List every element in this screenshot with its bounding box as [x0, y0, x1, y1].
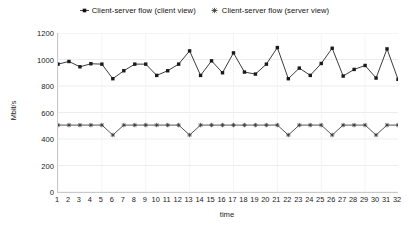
- x-axis-title: time: [57, 210, 397, 219]
- data-point-marker: [396, 78, 398, 81]
- y-axis-tick-label: 1000: [16, 55, 54, 64]
- y-axis-tick-label: 1200: [16, 29, 54, 38]
- y-axis-tick-label: 400: [16, 135, 54, 144]
- data-point-marker: [165, 123, 169, 127]
- x-axis-tick-label: 11: [163, 195, 171, 204]
- data-point-marker: [58, 62, 60, 65]
- data-point-marker: [287, 77, 290, 80]
- data-point-marker: [254, 72, 257, 75]
- x-axis-tick-label: 32: [393, 195, 401, 204]
- x-axis-tick-label: 14: [195, 195, 203, 204]
- x-axis-tick-label: 20: [261, 195, 269, 204]
- x-axis-tick-label: 9: [143, 195, 147, 204]
- data-point-marker: [264, 123, 268, 127]
- y-axis-tick-label: 600: [16, 108, 54, 117]
- x-axis-tick-label: 25: [316, 195, 324, 204]
- y-axis-tick-label: 0: [16, 188, 54, 197]
- x-axis-tick-label: 12: [174, 195, 182, 204]
- data-point-marker: [385, 123, 389, 127]
- data-point-marker: [396, 123, 398, 127]
- data-point-marker: [231, 123, 235, 127]
- x-axis-tick-label: 18: [239, 195, 247, 204]
- data-point-marker: [78, 65, 81, 68]
- x-axis-tick-label: 17: [228, 195, 236, 204]
- data-point-marker: [352, 68, 355, 71]
- y-axis-title: Mbit/s: [9, 81, 18, 141]
- data-point-marker: [111, 133, 115, 137]
- plot-svg: [58, 33, 398, 192]
- data-point-marker: [210, 59, 213, 62]
- x-axis-tick-labels: 1234567891011121314151617181920212223242…: [57, 195, 397, 209]
- legend-label-server-view: Client-server flow (server view): [222, 6, 329, 15]
- data-point-marker: [276, 46, 279, 49]
- data-point-marker: [297, 123, 301, 127]
- data-point-marker: [198, 123, 202, 127]
- x-axis-tick-label: 24: [305, 195, 313, 204]
- x-axis-tick-label: 6: [110, 195, 114, 204]
- x-axis-tick-label: 16: [217, 195, 225, 204]
- x-axis-tick-label: 21: [272, 195, 280, 204]
- data-point-marker: [122, 69, 125, 72]
- series-server-view: [58, 123, 398, 137]
- data-point-marker: [298, 66, 301, 69]
- data-point-marker: [176, 123, 180, 127]
- plot-area: [57, 33, 398, 193]
- data-point-marker: [166, 69, 169, 72]
- data-point-marker: [352, 123, 356, 127]
- data-point-marker: [265, 62, 268, 65]
- data-point-marker: [199, 74, 202, 77]
- data-point-marker: [363, 64, 366, 67]
- data-point-marker: [187, 133, 191, 137]
- data-point-marker: [275, 123, 279, 127]
- x-axis-tick-label: 28: [349, 195, 357, 204]
- x-axis-tick-label: 19: [250, 195, 258, 204]
- data-point-marker: [330, 133, 334, 137]
- y-axis-tick-label: 200: [16, 161, 54, 170]
- line-chart: Client-server flow (client view) Client-…: [0, 0, 409, 241]
- x-axis-tick-label: 30: [371, 195, 379, 204]
- data-point-marker: [67, 60, 70, 63]
- x-axis-tick-label: 5: [99, 195, 103, 204]
- data-point-marker: [133, 62, 136, 65]
- chart-legend: Client-server flow (client view) Client-…: [0, 6, 409, 15]
- x-axis-tick-label: 23: [294, 195, 302, 204]
- legend-label-client-view: Client-server flow (client view): [92, 6, 196, 15]
- data-point-marker: [155, 74, 158, 77]
- data-point-marker: [341, 74, 344, 77]
- data-point-marker: [330, 47, 333, 50]
- filled-square-marker-icon: [80, 6, 89, 15]
- data-point-marker: [286, 133, 290, 137]
- data-point-marker: [58, 123, 60, 127]
- x-axis-tick-label: 15: [206, 195, 214, 204]
- data-point-marker: [374, 76, 377, 79]
- x-axis-tick-label: 13: [184, 195, 192, 204]
- data-point-marker: [220, 123, 224, 127]
- data-point-marker: [253, 123, 257, 127]
- y-axis-tick-labels: 120010008006004002000: [14, 0, 54, 241]
- legend-item-client-view[interactable]: Client-server flow (client view): [80, 6, 196, 15]
- x-axis-tick-label: 22: [283, 195, 291, 204]
- data-point-marker: [308, 123, 312, 127]
- x-axis-tick-label: 7: [121, 195, 125, 204]
- data-point-marker: [320, 62, 323, 65]
- data-point-marker: [242, 123, 246, 127]
- data-point-marker: [341, 123, 345, 127]
- asterisk-marker-icon: [210, 6, 219, 15]
- data-point-marker: [144, 123, 148, 127]
- data-point-marker: [221, 71, 224, 74]
- data-point-marker: [100, 123, 104, 127]
- data-point-marker: [89, 123, 93, 127]
- legend-item-server-view[interactable]: Client-server flow (server view): [210, 6, 329, 15]
- data-point-marker: [363, 123, 367, 127]
- data-point-marker: [209, 123, 213, 127]
- series-client-view: [58, 46, 398, 81]
- x-axis-tick-label: 4: [88, 195, 92, 204]
- data-point-marker: [232, 51, 235, 54]
- data-point-marker: [111, 77, 114, 80]
- data-point-marker: [100, 62, 103, 65]
- x-axis-tick-label: 1: [55, 195, 59, 204]
- data-point-marker: [78, 123, 82, 127]
- x-axis-tick-label: 26: [327, 195, 335, 204]
- data-point-marker: [188, 49, 191, 52]
- data-point-marker: [374, 133, 378, 137]
